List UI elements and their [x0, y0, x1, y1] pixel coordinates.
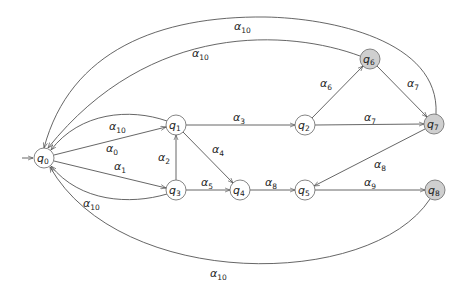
edge-q2-q7	[315, 124, 424, 125]
node-q1: q1	[166, 115, 186, 135]
svg-text:α0: α0	[106, 142, 118, 157]
svg-text:α8: α8	[374, 158, 386, 173]
svg-text:α10: α10	[234, 20, 251, 35]
svg-text:α5: α5	[201, 176, 213, 191]
edge-q6-q7	[377, 66, 427, 117]
svg-text:α10: α10	[109, 120, 126, 135]
svg-text:α10: α10	[192, 47, 209, 62]
node-q6: q6	[360, 49, 380, 69]
svg-text:α10: α10	[83, 197, 100, 212]
node-q7: q7	[424, 114, 444, 134]
svg-text:α1: α1	[114, 160, 126, 175]
edge-q2-q6	[312, 66, 363, 118]
edge-q7-q0	[44, 17, 436, 148]
edge-q3-q0	[51, 166, 167, 200]
svg-text:α4: α4	[212, 143, 224, 158]
node-q8: q8	[425, 180, 445, 200]
svg-text:α7: α7	[364, 111, 376, 126]
svg-text:α6: α6	[320, 77, 332, 92]
node-q2: q2	[295, 115, 315, 135]
svg-text:α3: α3	[233, 111, 245, 126]
node-q3: q3	[166, 180, 186, 200]
svg-text:α10: α10	[210, 267, 227, 282]
node-q4: q4	[230, 180, 250, 200]
node-q5: q5	[295, 180, 315, 200]
automaton-diagram: α0 α1 α10 α10 α2 α3 α4 α5 α8 α6 α7 α7 α8…	[0, 0, 467, 295]
svg-text:α7: α7	[407, 77, 419, 92]
svg-text:α9: α9	[364, 176, 376, 191]
node-q0: q0	[34, 148, 54, 168]
svg-text:α2: α2	[158, 151, 170, 166]
svg-text:α8: α8	[265, 176, 277, 191]
